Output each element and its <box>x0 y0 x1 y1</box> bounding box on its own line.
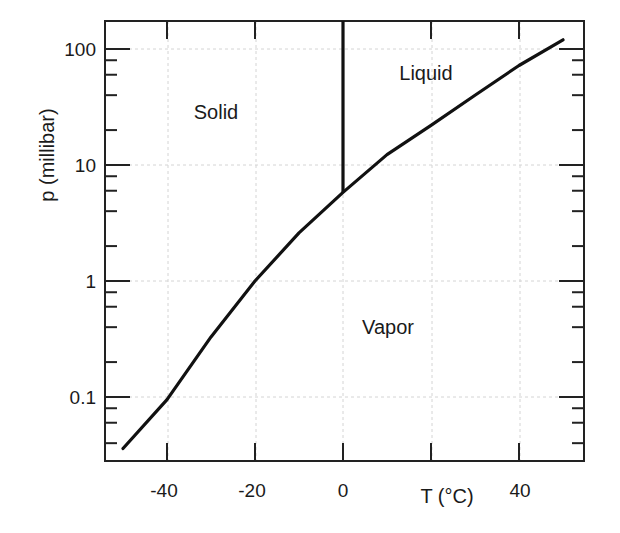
x-tick-0: 0 <box>338 480 349 501</box>
phase-diagram: 100 10 1 0.1 -40 -20 0 40 T (°C) p (mill… <box>0 0 620 533</box>
x-axis-label: T (°C) <box>420 485 473 507</box>
region-label-liquid: Liquid <box>399 62 452 84</box>
y-tick-1: 1 <box>85 271 96 292</box>
x-tick--40: -40 <box>150 480 177 501</box>
y-axis-label: p (millibar) <box>36 108 58 201</box>
x-tick-40: 40 <box>509 480 530 501</box>
y-tick-100: 100 <box>64 39 96 60</box>
y-tick-10: 10 <box>75 155 96 176</box>
region-label-vapor: Vapor <box>362 316 414 338</box>
region-label-solid: Solid <box>194 101 238 123</box>
x-tick--20: -20 <box>238 480 265 501</box>
y-tick-0.1: 0.1 <box>70 387 96 408</box>
